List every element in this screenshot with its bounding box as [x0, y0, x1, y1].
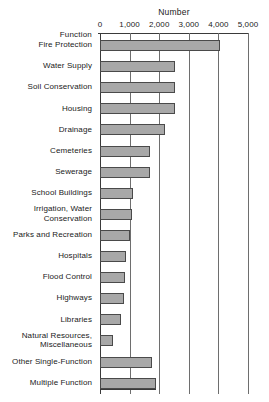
category-label: Irrigation, WaterConservation [2, 204, 92, 223]
category-label-line: Natural Resources, [2, 331, 92, 341]
category-label: Libraries [2, 315, 92, 325]
bar [100, 357, 152, 368]
bar [100, 167, 150, 178]
bar [100, 209, 132, 220]
category-label-line: Drainage [2, 125, 92, 135]
category-label: Fire Protection [2, 40, 92, 50]
category-label: Multiple Function [2, 378, 92, 388]
category-label-line: Soil Conservation [2, 82, 92, 92]
category-label-line: Cemeteries [2, 146, 92, 156]
baseline [100, 389, 156, 390]
category-label-line: Conservation [2, 214, 92, 224]
bar [100, 335, 113, 346]
category-label-line: Parks and Recreation [2, 230, 92, 240]
category-label-line: School Buildings [2, 188, 92, 198]
bar [100, 40, 220, 51]
category-label-line: Multiple Function [2, 378, 92, 388]
gridline [218, 33, 219, 394]
category-label: Other Single-Function [2, 357, 92, 367]
category-label-line: Highways [2, 293, 92, 303]
category-label: Soil Conservation [2, 82, 92, 92]
category-label: Cemeteries [2, 146, 92, 156]
category-label-line: Fire Protection [2, 40, 92, 50]
bar-chart: Number 01,0002,0003,0004,0005,000 Functi… [0, 0, 269, 402]
category-label: Drainage [2, 125, 92, 135]
category-label: Sewerage [2, 167, 92, 177]
category-label-line: Other Single-Function [2, 357, 92, 367]
x-axis-line [98, 33, 248, 34]
category-label-line: Irrigation, Water [2, 204, 92, 214]
bar [100, 272, 125, 283]
category-label-line: Libraries [2, 315, 92, 325]
bar [100, 82, 175, 93]
category-label-line: Water Supply [2, 61, 92, 71]
x-tick-label: 4,000 [208, 20, 229, 29]
plot-area [100, 33, 248, 381]
category-label: Highways [2, 293, 92, 303]
category-label: Flood Control [2, 272, 92, 282]
category-label: School Buildings [2, 188, 92, 198]
bar [100, 146, 150, 157]
bar [100, 378, 156, 389]
category-label: Natural Resources,Miscellaneous [2, 331, 92, 350]
bar [100, 188, 133, 199]
bar [100, 103, 175, 114]
category-label-line: Sewerage [2, 167, 92, 177]
x-tick-label: 2,000 [149, 20, 170, 29]
category-label-line: Housing [2, 104, 92, 114]
category-label: Parks and Recreation [2, 230, 92, 240]
gridline [248, 33, 249, 394]
bar [100, 251, 126, 262]
bar [100, 61, 175, 72]
bar [100, 314, 121, 325]
x-tick-label: 5,000 [238, 20, 259, 29]
x-tick-label: 0 [98, 20, 103, 29]
bar [100, 124, 165, 135]
x-tick-label: 3,000 [179, 20, 200, 29]
category-label-line: Flood Control [2, 272, 92, 282]
category-label-line: Miscellaneous [2, 340, 92, 350]
bar [100, 230, 130, 241]
category-label-line: Hospitals [2, 251, 92, 261]
bar [100, 293, 124, 304]
chart-axis-title: Number [100, 7, 248, 17]
y-axis-title: Function [0, 30, 92, 39]
category-label: Water Supply [2, 61, 92, 71]
gridline [189, 33, 190, 394]
category-label: Housing [2, 104, 92, 114]
category-label: Hospitals [2, 251, 92, 261]
x-tick-label: 1,000 [119, 20, 140, 29]
